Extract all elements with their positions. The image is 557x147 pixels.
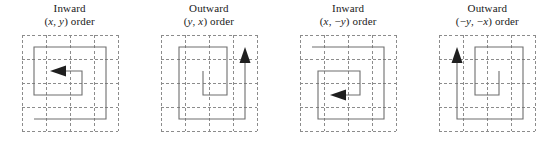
- caption-line-1: Inward: [44, 2, 94, 15]
- spiral-diagram: [437, 33, 537, 133]
- panel-caption: Inward (x, −y) order: [320, 2, 377, 27]
- panel-inward-x-negy: Inward (x, −y) order: [279, 0, 418, 147]
- caption-line-2: (−y, −x) order: [456, 15, 519, 28]
- caption-line-2: (y, x) order: [184, 15, 234, 28]
- dashed-grid: [439, 35, 535, 131]
- caption-line-2: (x, y) order: [44, 15, 94, 28]
- caption-line-1: Outward: [456, 2, 519, 15]
- panel-caption: Outward (y, x) order: [184, 2, 234, 27]
- spiral-diagram: [159, 33, 259, 133]
- spiral-order-figure: Inward (x, y) order: [0, 0, 557, 147]
- arrowhead-icon: [239, 47, 250, 63]
- caption-suffix: ) order: [488, 15, 519, 27]
- dashed-grid: [300, 35, 396, 131]
- caption-line-1: Outward: [184, 2, 234, 15]
- caption-suffix: ) order: [203, 15, 234, 27]
- arrowhead-icon: [452, 47, 463, 63]
- panel-outward-negy-negx: Outward (−y, −x) order: [418, 0, 557, 147]
- caption-suffix: ) order: [346, 15, 377, 27]
- caption-suffix: ) order: [64, 15, 95, 27]
- dashed-grid: [22, 35, 118, 131]
- dashed-grid: [161, 35, 257, 131]
- panel-outward-yx: Outward (y, x) order: [139, 0, 278, 147]
- arrowhead-icon: [330, 90, 346, 101]
- caption-paren-open: (−: [456, 15, 466, 27]
- caption-separator: , −: [471, 15, 483, 27]
- spiral-diagram: [20, 33, 120, 133]
- caption-separator: , −: [329, 15, 341, 27]
- panel-caption: Outward (−y, −x) order: [456, 2, 519, 27]
- panel-caption: Inward (x, y) order: [44, 2, 94, 27]
- arrowhead-icon: [50, 66, 66, 77]
- caption-line-2: (x, −y) order: [320, 15, 377, 28]
- spiral-diagram: [298, 33, 398, 133]
- caption-line-1: Inward: [320, 2, 377, 15]
- panel-inward-xy: Inward (x, y) order: [0, 0, 139, 147]
